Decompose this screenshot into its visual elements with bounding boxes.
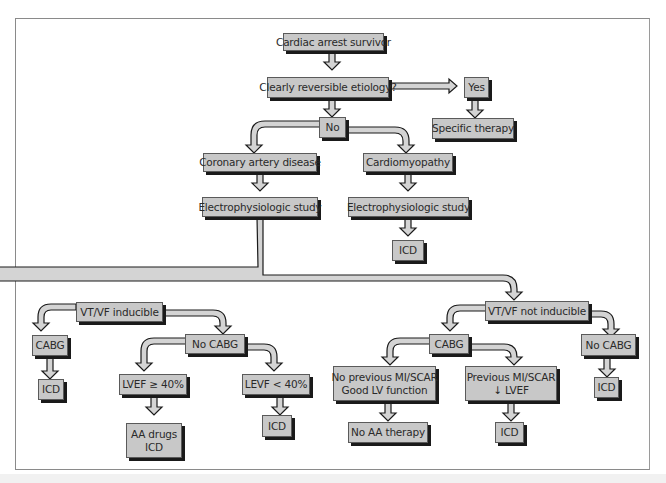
arrow-cm-to-eps	[400, 172, 416, 191]
arrow-inducible-to-nocabg	[163, 310, 231, 334]
node-cardiomyopathy: Cardiomyopathy	[363, 153, 453, 172]
node-icd-previous: ICD	[495, 422, 524, 443]
node-levf-lt-40: LEVF < 40%	[242, 374, 310, 395]
node-cabg-not-inducible: CABG	[429, 334, 469, 354]
node-icd-cabg-inducible: ICD	[38, 379, 64, 400]
arrow-nocabg-to-icd-right	[599, 356, 615, 377]
arrow-cabg-to-icd	[42, 356, 58, 379]
node-cardiac-arrest-survivor: Cardiac arrest survivor	[283, 33, 384, 51]
arrow-eps-to-split	[0, 217, 522, 300]
arrow-no-to-cardiomyopathy	[345, 127, 414, 153]
arrow-no-to-cad	[246, 121, 320, 153]
arrow-cabg-to-prev	[468, 344, 522, 365]
arrow-reversible-to-no	[324, 98, 340, 117]
node-icd-cardiomyopathy: ICD	[392, 240, 424, 261]
node-specific-therapy: Specific therapy	[432, 118, 514, 139]
arrow-nocabg-to-lvefge	[136, 338, 189, 371]
node-no-previous-mi-scar: No previous MI/SCAR Good LV function	[333, 366, 436, 401]
node-icd-no-cabg-not-inducible: ICD	[594, 377, 619, 398]
node-no-cabg-inducible: No CABG	[185, 334, 245, 354]
connector-arrows	[0, 0, 666, 483]
arrow-cabg-to-noprev	[382, 338, 430, 365]
arrow-notind-to-cabg	[442, 305, 490, 331]
arrow-lveflt-to-icd	[272, 395, 288, 415]
node-no-aa-therapy: No AA therapy	[348, 422, 428, 443]
node-icd-levf-lt-40: ICD	[262, 415, 292, 437]
arrow-nocabg-to-lvEflt	[244, 344, 282, 371]
arrow-prev-to-icd	[503, 401, 519, 421]
arrow-root-to-reversible	[324, 51, 340, 70]
arrow-lvefge-to-aadrugs	[146, 395, 162, 415]
node-yes: Yes	[464, 77, 489, 98]
node-previous-mi-scar: Previous MI/SCAR ↓ LVEF	[465, 366, 557, 401]
node-cabg-inducible: CABG	[32, 335, 68, 356]
node-no: No	[319, 117, 346, 138]
node-lvef-ge-40: LVEF ≥ 40%	[119, 374, 187, 395]
node-no-cabg-not-inducible: No CABG	[581, 334, 636, 356]
arrow-reversible-to-yes	[389, 79, 457, 93]
arrow-cad-to-eps	[252, 172, 268, 191]
arrow-noprev-to-noaa	[380, 401, 396, 421]
arrow-inducible-to-cabg	[33, 304, 76, 331]
node-aa-drugs-icd: AA drugs ICD	[126, 423, 182, 458]
node-coronary-artery-disease: Coronary artery disease	[203, 153, 317, 172]
node-clearly-reversible-etiology: Clearly reversible etiology?	[267, 77, 389, 98]
arrow-yes-to-specific	[467, 99, 483, 118]
node-vtvf-inducible: VT/VF inducible	[76, 302, 163, 322]
arrow-eps-to-icd	[400, 217, 416, 236]
node-vtvf-not-inducible: VT/VF not inducible	[485, 301, 589, 321]
node-electrophysiologic-study-cad: Electrophysiologic study	[202, 197, 318, 217]
node-electrophysiologic-study-cm: Electrophysiologic study	[348, 197, 469, 217]
